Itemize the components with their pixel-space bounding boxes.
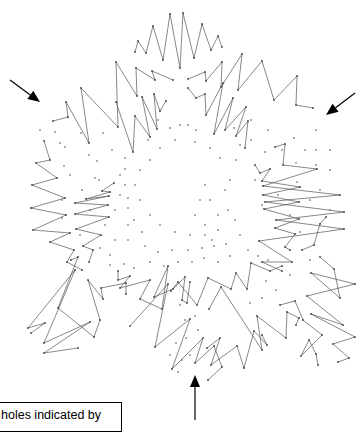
vertex-dot: [32, 229, 34, 231]
vertex-dot: [117, 279, 119, 281]
vertex-dot: [286, 311, 288, 313]
vertex-dot: [266, 344, 268, 346]
lattice-dot: [141, 231, 143, 233]
vertex-dot: [306, 295, 308, 297]
vertex-dot: [299, 186, 301, 188]
zigzag-path: [135, 13, 222, 68]
lattice-dot: [275, 289, 277, 291]
vertex-dot: [194, 362, 196, 364]
vertex-dot: [108, 216, 110, 218]
vertex-dot: [129, 325, 131, 327]
lattice-dot: [189, 354, 191, 356]
vertex-dot: [316, 168, 318, 170]
vertex-dot: [100, 234, 102, 236]
vertex-dot: [274, 227, 276, 229]
vertex-dot: [205, 80, 207, 82]
vertex-dot: [187, 78, 189, 80]
zigzag-path: [188, 83, 248, 148]
vertex-dot: [310, 313, 312, 315]
lattice-dot: [250, 139, 252, 141]
vertex-dot: [135, 67, 137, 69]
vertex-dot: [284, 143, 286, 145]
vertex-dot: [213, 345, 215, 347]
lattice-dot: [213, 245, 215, 247]
vertex-dot: [310, 272, 312, 274]
vertex-dot: [81, 269, 83, 271]
lattice-dot: [195, 129, 197, 131]
vertex-dot: [221, 46, 223, 48]
vertex-dot: [73, 249, 75, 251]
lattice-dot: [296, 181, 298, 183]
vertex-dot: [259, 172, 261, 174]
vertex-dot: [134, 115, 136, 117]
zigzag-path: [116, 94, 166, 152]
vertex-dot: [189, 281, 191, 283]
vertex-dot: [308, 339, 310, 341]
vertex-dot: [187, 87, 189, 89]
vertex-dot: [136, 95, 138, 97]
lattice-dot: [179, 304, 181, 306]
vertex-dot: [65, 214, 67, 216]
vertex-dot: [69, 232, 71, 234]
vertex-dot: [295, 324, 297, 326]
vertex-dot: [289, 249, 291, 251]
lattice-dot: [225, 243, 227, 245]
vertex-dot: [57, 307, 59, 309]
lattice-dot: [127, 197, 129, 199]
vertex-dot: [107, 204, 109, 206]
vertex-dot: [333, 268, 335, 270]
hole-indicator-arrows: [10, 80, 355, 420]
vertex-dot: [49, 159, 51, 161]
vertex-dot: [92, 249, 94, 251]
vertex-dot: [113, 182, 115, 184]
lattice-dot: [239, 234, 241, 236]
lattice-dot: [149, 159, 151, 161]
lattice-dot: [99, 247, 101, 249]
vertex-dot: [236, 345, 238, 347]
lattice-dot: [39, 129, 41, 131]
lattice-dot: [139, 199, 141, 201]
vertex-dot: [75, 228, 77, 230]
vertex-dot: [132, 151, 134, 153]
vertex-dot: [262, 194, 264, 196]
lattice-dot: [277, 194, 279, 196]
vertex-dot: [294, 233, 296, 235]
vertex-dot: [85, 198, 87, 200]
vertex-dot: [167, 265, 169, 267]
vertex-dot: [261, 60, 263, 62]
vertex-dot: [184, 276, 186, 278]
vertex-dot: [88, 261, 90, 263]
vertex-dot: [317, 364, 319, 366]
vertex-dot: [312, 107, 314, 109]
vertex-dot: [89, 321, 91, 323]
vertex-dot: [348, 357, 350, 359]
zigzag-path: [209, 287, 299, 350]
lattice-dot: [329, 209, 331, 211]
lattice-dot: [281, 149, 283, 151]
vertex-dot: [301, 249, 303, 251]
lattice-dot: [89, 209, 91, 211]
vertex-dot: [339, 194, 341, 196]
vertex-dot: [88, 142, 90, 144]
lattice-dot: [139, 169, 141, 171]
zigzag-bond-paths: [27, 12, 356, 381]
vertex-dot: [263, 208, 265, 210]
lattice-dot: [249, 302, 251, 304]
vertex-dot: [354, 283, 356, 285]
vertex-dot: [250, 262, 252, 264]
vertex-dot: [87, 279, 89, 281]
lattice-dot: [189, 234, 191, 236]
vertex-dot: [177, 281, 179, 283]
vertex-dot: [210, 364, 212, 366]
lattice-dot: [149, 261, 151, 263]
lattice-dot: [185, 337, 187, 339]
vertex-dot: [66, 261, 68, 263]
vertex-dot: [207, 277, 209, 279]
vertex-dot: [332, 343, 334, 345]
vertex-dot: [125, 282, 127, 284]
lattice-dot: [265, 280, 267, 282]
vertex-dot: [35, 162, 37, 164]
vertex-dot: [343, 228, 345, 230]
lattice-dot: [204, 234, 206, 236]
lattice-dot: [157, 119, 159, 121]
